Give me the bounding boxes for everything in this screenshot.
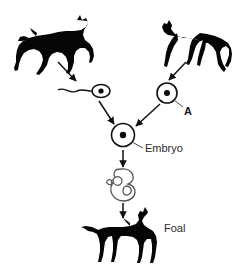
label-egg-cell-a: A [184, 105, 192, 117]
egg-nucleus [164, 90, 170, 96]
sperm-nucleus [98, 88, 103, 93]
label-foal: Foal [164, 222, 185, 234]
reproduction-diagram: A Embryo [0, 0, 240, 264]
diagram-canvas: A Embryo [0, 0, 240, 264]
label-embryo: Embryo [145, 142, 183, 154]
embryo-cell [112, 124, 135, 147]
embryo-nucleus [120, 132, 126, 138]
